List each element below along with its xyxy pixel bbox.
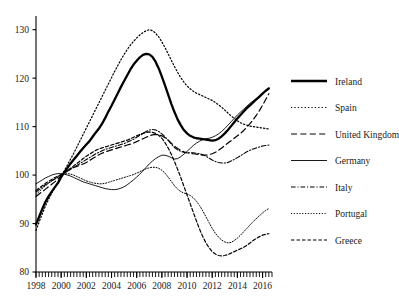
x-axis-tick-label: 2006 <box>127 281 146 291</box>
x-axis-tick-label: 2010 <box>178 281 197 291</box>
y-axis-tick-label: 80 <box>20 267 30 277</box>
x-axis-tick-label: 2004 <box>102 281 121 291</box>
legend-label: United Kingdom <box>335 130 399 140</box>
y-axis-tick-label: 100 <box>15 170 30 180</box>
legend-label: Greece <box>335 236 362 246</box>
y-axis-tick-label: 90 <box>20 219 30 229</box>
legend-label: Spain <box>335 103 357 113</box>
x-axis-tick-label: 2014 <box>228 281 247 291</box>
legend-label: Portugal <box>335 209 368 219</box>
legend-label: Germany <box>335 156 371 166</box>
chart-container: 8090100110120130 19982000200220042006200… <box>0 0 399 307</box>
y-axis-tick-label: 120 <box>15 74 30 84</box>
y-axis-tick-label: 130 <box>15 25 30 35</box>
x-axis-tick-label: 2000 <box>52 281 71 291</box>
x-axis-tick-label: 2008 <box>152 281 171 291</box>
x-axis-tick-label: 1998 <box>27 281 46 291</box>
y-axis-tick-label: 110 <box>15 122 29 132</box>
chart-background <box>0 0 399 307</box>
x-axis-tick-label: 2012 <box>203 281 222 291</box>
legend-label: Italy <box>335 183 353 193</box>
x-axis-tick-label: 2002 <box>77 281 96 291</box>
x-axis-tick-label: 2016 <box>253 281 272 291</box>
line-chart: 8090100110120130 19982000200220042006200… <box>0 0 399 307</box>
legend-label: Ireland <box>335 77 362 87</box>
